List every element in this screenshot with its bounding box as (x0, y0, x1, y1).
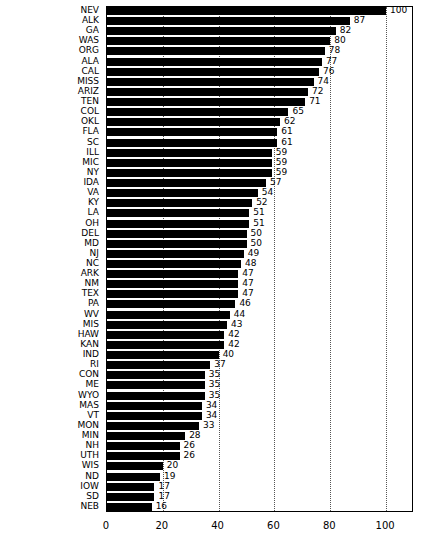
x-tick-label: 80 (323, 520, 336, 532)
bar (107, 199, 252, 207)
bar (107, 442, 180, 450)
category-label: OKL (81, 116, 99, 126)
bar (107, 503, 152, 511)
bar-row: 47 (107, 280, 412, 290)
bar-value-label: 74 (318, 76, 329, 86)
bar-value-label: 51 (253, 218, 264, 228)
bar-value-label: 61 (281, 137, 292, 147)
bar-row: 20 (107, 462, 412, 472)
bar-row: 82 (107, 27, 412, 37)
category-label: HAW (78, 329, 99, 339)
bar (107, 270, 238, 278)
bar (107, 88, 308, 96)
category-label: ME (86, 379, 99, 389)
bar-row: 65 (107, 108, 412, 118)
bar-row: 77 (107, 58, 412, 68)
bar-row: 48 (107, 260, 412, 270)
bar-row: 76 (107, 68, 412, 78)
category-label: SD (86, 491, 99, 501)
category-label: ILL (86, 147, 99, 157)
bar-row: 80 (107, 37, 412, 47)
bar-value-label: 54 (262, 187, 273, 197)
bar-row: 50 (107, 240, 412, 250)
bar-row: 57 (107, 179, 412, 189)
bar-row: 35 (107, 381, 412, 391)
bar (107, 118, 280, 126)
bar (107, 230, 247, 238)
bar-row: 49 (107, 250, 412, 260)
category-label: MIN (82, 430, 99, 440)
category-label: NEV (80, 5, 99, 15)
x-tick-label: 20 (155, 520, 168, 532)
category-label: MIS (83, 319, 99, 329)
bar-value-label: 50 (251, 228, 262, 238)
bar-value-label: 20 (167, 460, 178, 470)
category-label: MAS (79, 400, 99, 410)
bar (107, 220, 249, 228)
bar-value-label: 33 (203, 420, 214, 430)
bar-value-label: 77 (326, 56, 337, 66)
x-tick-label: 40 (211, 520, 224, 532)
category-label: TEX (82, 288, 99, 298)
bar (107, 462, 163, 470)
bar-row: 61 (107, 139, 412, 149)
bar-value-label: 34 (206, 400, 217, 410)
bar (107, 149, 272, 157)
category-axis: NEVALKGAWASORGALACALMISSARIZTENCOLOKLFLA… (0, 6, 103, 512)
bar (107, 371, 205, 379)
bar-row: 59 (107, 159, 412, 169)
bar-value-label: 26 (184, 450, 195, 460)
bar-row: 87 (107, 17, 412, 27)
bar-row: 33 (107, 422, 412, 432)
bar (107, 290, 238, 298)
bar (107, 17, 350, 25)
bar-value-label: 48 (245, 258, 256, 268)
category-label: MD (84, 238, 99, 248)
bar (107, 108, 288, 116)
category-label: PA (88, 298, 99, 308)
bar (107, 412, 202, 420)
bar-chart: NEVALKGAWASORGALACALMISSARIZTENCOLOKLFLA… (0, 0, 423, 536)
bar (107, 341, 224, 349)
bar (107, 321, 227, 329)
bar-row: 40 (107, 351, 412, 361)
bar-value-label: 65 (292, 106, 303, 116)
category-label: ARK (81, 268, 99, 278)
bar-row: 71 (107, 98, 412, 108)
bar (107, 58, 322, 66)
category-label: ALK (82, 15, 99, 25)
bar-row: 26 (107, 452, 412, 462)
bar (107, 98, 305, 106)
bar-value-label: 61 (281, 126, 292, 136)
category-label: NY (87, 167, 99, 177)
bar-row: 35 (107, 371, 412, 381)
category-label: ORG (79, 45, 99, 55)
bar-value-label: 57 (270, 177, 281, 187)
bar (107, 392, 205, 400)
bar-value-label: 50 (251, 238, 262, 248)
bar (107, 189, 258, 197)
category-label: VT (87, 410, 99, 420)
bar (107, 300, 235, 308)
bar-row: 47 (107, 290, 412, 300)
bar (107, 37, 330, 45)
category-label: MIC (82, 157, 99, 167)
bar-value-label: 19 (164, 471, 175, 481)
bar (107, 250, 244, 258)
bar (107, 240, 247, 248)
bar (107, 452, 180, 460)
bar-value-label: 16 (156, 501, 167, 511)
bar-row: 44 (107, 311, 412, 321)
category-label: CON (79, 369, 99, 379)
bar-value-label: 72 (312, 86, 323, 96)
category-label: LA (88, 207, 99, 217)
category-label: KAN (80, 339, 99, 349)
category-label: TEN (81, 96, 99, 106)
bar-value-label: 34 (206, 410, 217, 420)
category-label: MISS (77, 76, 99, 86)
x-axis: 020406080100 (106, 512, 413, 536)
category-label: COL (81, 106, 99, 116)
bar-row: 34 (107, 412, 412, 422)
bar-value-label: 47 (242, 288, 253, 298)
category-label: RI (90, 359, 99, 369)
